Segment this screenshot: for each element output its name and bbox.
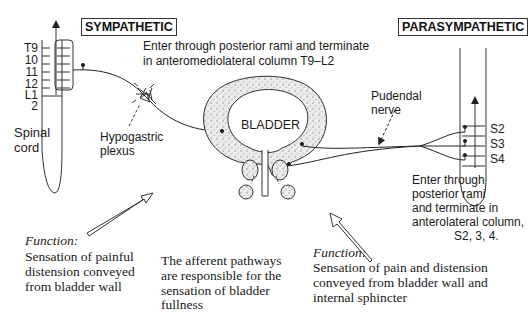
- sympathetic-entry-text-line2: in anteromediolateral column T9–L2: [143, 55, 334, 68]
- left-function-line3: from bladder wall: [25, 279, 122, 294]
- bladder-label: BLADDER: [241, 119, 300, 132]
- para-entry-text-line2: posterior rami: [412, 188, 485, 201]
- pudendal-nerve-label-line2: nerve: [371, 104, 401, 117]
- center-caption-line3: sensation of bladder: [161, 283, 270, 298]
- right-function-line1: Sensation of pain and distension: [313, 260, 488, 275]
- right-function-line2: conveyed from bladder wall and: [313, 275, 488, 290]
- para-entry-text-line4: anterolateral column,: [412, 216, 524, 229]
- left-function-heading: Function:: [25, 233, 78, 248]
- center-caption-line1: The afferent pathways: [161, 253, 281, 268]
- sympathetic-title: SYMPATHETIC: [81, 18, 177, 36]
- center-caption-line4: fullness: [161, 297, 203, 312]
- hypogastric-plexus-label-line2: plexus: [100, 145, 135, 158]
- right-function-heading: Function:: [313, 245, 366, 260]
- sympathetic-nerve: [73, 63, 218, 131]
- para-entry-text-line1: Enter through: [412, 174, 485, 187]
- parasympathetic-title: PARASYMPATHETIC: [398, 18, 528, 36]
- left-function-line2: distension conveyed: [25, 264, 135, 279]
- para-entry-text-line5: S2, 3, 4.: [454, 230, 499, 243]
- spinal-cord-label-line2: cord: [14, 140, 39, 155]
- sacral-segment-label: S3: [490, 138, 505, 151]
- para-entry-text-line3: and terminate in: [412, 202, 498, 215]
- left-hollow-arrow: [87, 193, 153, 236]
- segment-label: 2: [18, 100, 38, 112]
- bladder: [204, 76, 327, 199]
- sympathetic-entry-text-line1: Enter through posterior rami and termina…: [143, 40, 369, 53]
- sacral-segment-label: S2: [490, 123, 505, 136]
- hypogastric-plexus: [129, 83, 156, 126]
- center-caption-line2: are responsible for the: [161, 268, 281, 283]
- right-function-line3: internal sphincter: [313, 290, 407, 305]
- pudendal-nerve-label-line1: Pudendal: [371, 90, 422, 103]
- sacral-segment-label: S4: [490, 153, 505, 166]
- left-function-line1: Sensation of painful: [25, 249, 134, 264]
- left-spinal-cord: [42, 24, 73, 193]
- hypogastric-plexus-label-line1: Hypogastric: [100, 131, 163, 144]
- spinal-cord-label-line1: Spinal: [14, 125, 50, 140]
